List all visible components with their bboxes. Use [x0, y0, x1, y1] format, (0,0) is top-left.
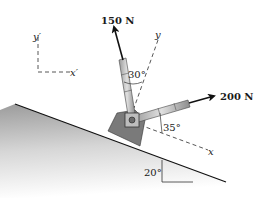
y-prime-label: y′	[32, 31, 42, 42]
incline-angle-label: 20°	[144, 167, 162, 178]
force-diagram: y′ x′ 20° y x 150 N 200 N	[0, 0, 263, 198]
y-axis-label: y	[154, 29, 161, 40]
reference-axes	[38, 37, 70, 72]
angle-label-35: 35°	[163, 122, 181, 133]
force-label-200N: 200 N	[220, 91, 254, 102]
angle-label-30: 30°	[128, 69, 146, 80]
force-label-150N: 150 N	[101, 15, 135, 26]
rotated-axes	[134, 40, 208, 150]
x-axis-label: x	[208, 146, 214, 157]
inclined-surface	[0, 104, 226, 198]
force-arrow-200N	[189, 96, 214, 103]
angle-marker-35	[160, 113, 162, 133]
rod-200N	[133, 100, 190, 123]
force-arrow-150N	[114, 27, 123, 60]
x-prime-label: x′	[70, 67, 79, 78]
pivot-joint	[125, 113, 139, 127]
rod-150N	[119, 58, 135, 115]
